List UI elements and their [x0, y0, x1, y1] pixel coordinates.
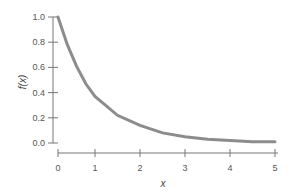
y-tick-label: 0.2 [32, 113, 45, 123]
x-tick-label: 5 [272, 163, 277, 173]
x-tick-label: 1 [92, 163, 97, 173]
x-tick-label: 2 [137, 163, 142, 173]
x-tick-label: 4 [227, 163, 232, 173]
y-tick-label: 0.4 [32, 88, 45, 98]
y-axis: 0.00.20.40.60.81.0 [32, 12, 58, 148]
x-tick-label: 3 [182, 163, 187, 173]
x-axis-title: x [160, 178, 167, 189]
y-tick-label: 0.6 [32, 62, 45, 72]
x-tick-label: 0 [55, 163, 60, 173]
x-axis: 012345 [55, 149, 278, 173]
y-axis-title: f(x) [17, 75, 28, 89]
exponential-decay-chart: 0.00.20.40.60.81.0 f(x) 012345 x [0, 0, 294, 196]
y-tick-label: 0.0 [32, 138, 45, 148]
y-tick-label: 0.8 [32, 37, 45, 47]
data-line [58, 17, 275, 142]
y-tick-label: 1.0 [32, 12, 45, 22]
